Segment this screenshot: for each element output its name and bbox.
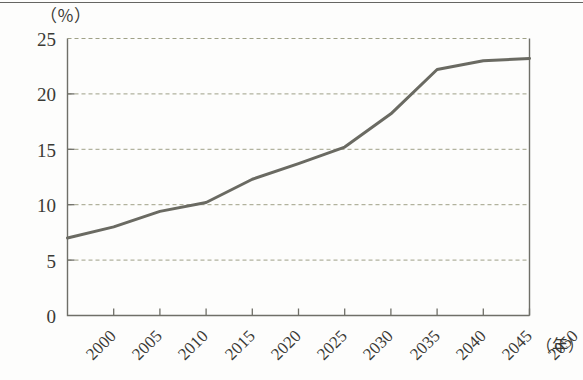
chart-container: （％） （年） 25 20 15 10 5 0 2000 2005 2010 2… — [0, 0, 583, 380]
data-series-line — [68, 58, 530, 238]
gridlines-group — [68, 39, 530, 261]
axis-frame — [68, 39, 530, 316]
plot-area — [0, 0, 583, 380]
